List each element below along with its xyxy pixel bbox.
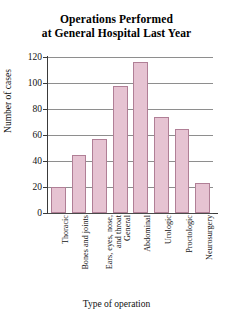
bar-abdominal <box>133 62 148 213</box>
y-tick-label-0: 0 <box>16 209 42 219</box>
bar-general <box>113 86 128 213</box>
x-label-general: General <box>124 215 133 241</box>
bar-ears-eyes-nose-and-throat <box>92 139 107 213</box>
bar-neurosurgery <box>195 183 210 213</box>
bar-proctologic <box>175 129 190 214</box>
x-axis-category-labels: ThoracicBones and jointsEars, eyes, nose… <box>48 215 213 299</box>
bar-thoracic <box>51 187 66 213</box>
y-tick-label-100: 100 <box>16 79 42 89</box>
bar-bones-and-joints <box>72 155 87 214</box>
y-tick-label-80: 80 <box>16 105 42 115</box>
x-label-thoracic: Thoracic <box>62 215 71 244</box>
y-tick-label-60: 60 <box>16 131 42 141</box>
y-tick-label-40: 40 <box>16 157 42 167</box>
y-tick-label-20: 20 <box>16 183 42 193</box>
y-axis-tick-labels: 020406080100120 <box>8 0 42 321</box>
y-axis-title: Number of cases <box>3 46 13 156</box>
bar-series <box>48 57 213 213</box>
x-label-proctologic: Proctologic <box>186 215 195 253</box>
bar-chart: Operations Performed at General Hospital… <box>0 0 233 321</box>
y-tick-label-120: 120 <box>16 53 42 63</box>
x-label-bones-and-joints: Bones and joints <box>82 215 91 270</box>
x-label-abdominal: Abdominal <box>144 215 153 252</box>
bar-urologic <box>154 117 169 213</box>
x-label-urologic: Urologic <box>165 215 174 244</box>
x-axis-title: Type of operation <box>0 299 233 310</box>
plot-area <box>48 57 213 213</box>
x-label-ears-eyes-nose-and-throat: Ears, eyes, nose,and throat <box>106 215 123 295</box>
x-label-neurosurgery: Neurosurgery <box>206 215 215 260</box>
